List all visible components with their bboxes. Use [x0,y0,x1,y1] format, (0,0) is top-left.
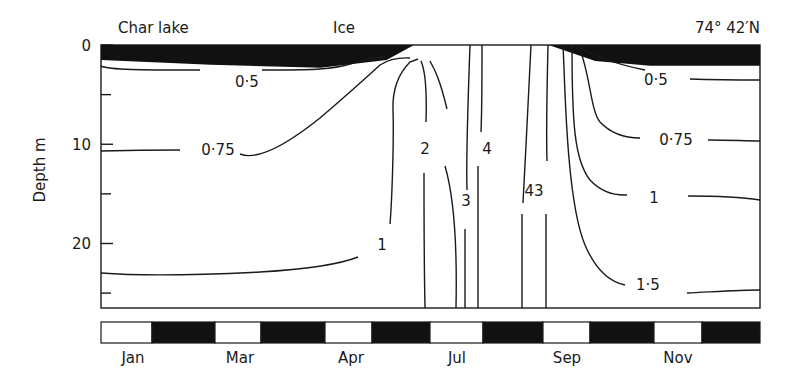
iso-3-right-a [547,45,548,161]
isotherm-label-9: 1 [649,189,659,207]
y-axis-label: Depth m [31,137,49,202]
isotherm-label-3: 2 [420,140,430,158]
iso-1-right-b [688,196,760,200]
iso-1-left-a [101,257,358,275]
month-bar [101,322,760,343]
month-segment-2 [215,322,261,343]
contour-chart: Char lake Ice 74° 42′N Depth m 01020 0·5… [0,0,788,392]
iso-2-3-a [430,61,447,109]
ice-annotation: Ice [333,19,355,37]
iso-1-left-b [390,59,418,224]
iso-2-a [421,61,426,122]
isotherm-label-4: 3 [461,192,471,210]
month-label-jan: Jan [120,349,144,367]
iso-2-3-b [445,166,456,308]
ice-winter [101,45,414,68]
isotherm-label-6: 43 [524,182,543,200]
month-segment-8 [543,322,590,343]
month-segment-0 [101,322,152,343]
iso-1-right [572,45,627,195]
isotherm-label-2: 1 [377,236,387,254]
iso-3-a [467,45,470,190]
y-tick-label-0: 0 [81,37,91,55]
isotherm-label-0: 0·5 [235,73,259,91]
isotherm-label-10: 1·5 [636,276,660,294]
iso-4-right-a [523,45,531,203]
month-segment-11 [702,322,760,343]
month-segment-10 [654,322,702,343]
month-segment-9 [590,322,654,343]
iso-0-75-left-a [101,150,180,151]
month-segment-7 [483,322,543,343]
y-tick-label-10: 10 [72,136,91,154]
iso-0-75-right-b [708,140,760,141]
isotherm-label-7: 0·5 [644,71,668,89]
iso-0-5-left-a [101,66,200,70]
isotherm-label-8: 0·75 [659,131,692,149]
month-label-mar: Mar [226,349,255,367]
month-label-apr: Apr [338,349,365,367]
isotherm-label-1: 0·75 [201,141,234,159]
isotherm-labels: 0·50·751234430·50·7511·5 [201,71,692,294]
ice-layer [101,45,760,68]
iso-0-5-right-b [690,79,760,80]
latitude-label: 74° 42′N [695,19,760,37]
month-label-sep: Sep [553,349,581,367]
month-segment-3 [261,322,325,343]
iso-4-a [481,45,482,132]
ice-autumn [549,45,760,66]
month-label-nov: Nov [663,349,692,367]
iso-1-5-right-b [687,290,760,293]
isotherm-label-5: 4 [482,140,492,158]
month-labels: JanMarAprJulSepNov [120,349,692,367]
iso-0-75-left-b [240,58,410,156]
month-segment-5 [372,322,430,343]
month-segment-4 [325,322,372,343]
y-tick-label-20: 20 [72,235,91,253]
chart-title: Char lake [118,19,189,37]
month-segment-6 [430,322,483,343]
month-label-jul: Jul [447,349,466,367]
iso-2-b [424,173,425,308]
month-segment-1 [152,322,215,343]
